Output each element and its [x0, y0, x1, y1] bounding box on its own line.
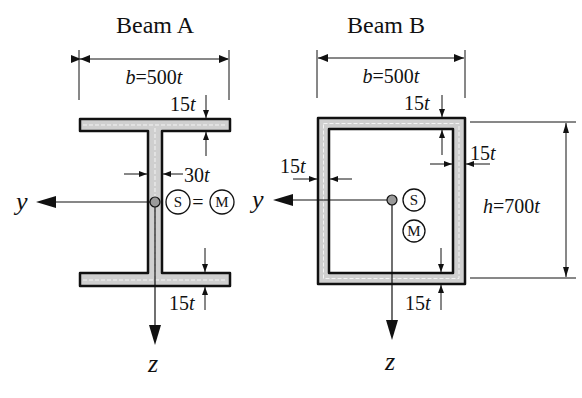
beam-a-z-label: z: [147, 349, 158, 378]
y-axis-arrow-icon: [36, 196, 56, 208]
beam-a-y-label: y: [13, 187, 28, 216]
beam-b-z-label: z: [384, 347, 395, 376]
svg-text:15t: 15t: [404, 92, 430, 114]
z-axis-arrow-icon: [149, 325, 161, 345]
y-axis-arrow-icon: [273, 194, 293, 206]
beam-b-title: Beam B: [347, 12, 425, 38]
beam-a-title: Beam A: [116, 12, 195, 38]
svg-text:15t: 15t: [280, 155, 306, 177]
beam-b-left-thickness: 15t: [280, 155, 352, 182]
beam-b-width-dimension: b=500t: [317, 50, 465, 98]
beam-b-y-label: y: [249, 185, 264, 214]
svg-text:15t: 15t: [169, 292, 195, 314]
beam-b-height-label: h=700t: [483, 195, 540, 217]
svg-text:S: S: [174, 194, 182, 210]
beam-b-shear-center-centroid: S M: [403, 189, 425, 242]
beam-a-web-thickness: 30t: [124, 164, 210, 186]
svg-text:M: M: [215, 194, 228, 210]
svg-text:M: M: [407, 223, 420, 239]
centroid-dot-icon: [150, 197, 160, 207]
beam-b-width-label: b=500t: [363, 65, 420, 87]
svg-text:30t: 30t: [184, 164, 210, 186]
svg-text:15t: 15t: [170, 93, 196, 115]
svg-text:15t: 15t: [470, 142, 496, 164]
centroid-dot-icon: [387, 195, 397, 205]
svg-text:=: =: [192, 191, 203, 213]
z-axis-arrow-icon: [386, 320, 398, 340]
beam-diagram: Beam A b=500t 15t: [0, 0, 582, 398]
beam-b: Beam B b=500t 15t 15t: [249, 12, 576, 376]
beam-a: Beam A b=500t 15t: [13, 12, 234, 378]
svg-text:S: S: [410, 192, 418, 208]
svg-text:15t: 15t: [405, 292, 431, 314]
beam-a-shear-center-centroid: S = M: [166, 190, 234, 214]
beam-a-width-dimension: b=500t: [79, 50, 229, 100]
beam-a-width-label: b=500t: [126, 66, 183, 88]
